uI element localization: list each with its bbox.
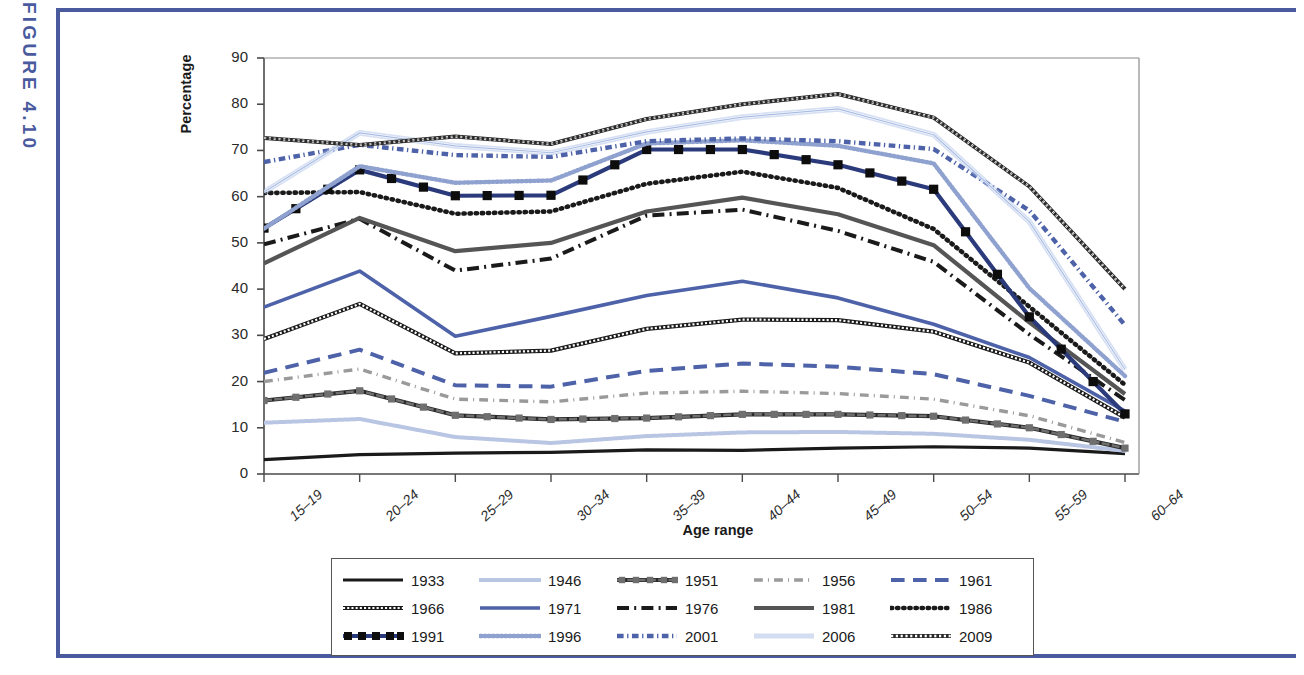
series-line-1933 [264, 447, 1125, 460]
legend-item-1961[interactable]: 1961 [890, 572, 1027, 589]
legend-item-2006[interactable]: 2006 [753, 628, 890, 645]
legend-swatch-1961 [890, 573, 952, 587]
legend-item-1966[interactable]: 1966 [342, 600, 479, 617]
y-tick-label: 50 [208, 233, 248, 250]
y-axis-title: Percentage [178, 0, 194, 194]
legend-swatch-1991 [342, 629, 404, 643]
y-tick-label: 80 [208, 94, 248, 111]
x-axis-title-text: Age range [683, 522, 754, 538]
chart-container: Percentage Age range 0102030405060708090… [60, 12, 1300, 662]
legend-swatch-1971 [479, 601, 541, 615]
legend-label: 1946 [548, 572, 581, 589]
legend-swatch-1996 [479, 629, 541, 643]
y-tick-label: 20 [208, 372, 248, 389]
y-tick-label: 30 [208, 325, 248, 342]
legend-swatch-1946 [479, 573, 541, 587]
legend-label: 1951 [685, 572, 718, 589]
y-tick-label: 70 [208, 140, 248, 157]
legend-label: 1933 [411, 572, 444, 589]
series-line-1951 [260, 387, 1128, 452]
legend-swatch-1976 [616, 601, 678, 615]
legend-item-1996[interactable]: 1996 [479, 628, 616, 645]
legend-item-1991[interactable]: 1991 [342, 628, 479, 645]
legend-label: 2006 [822, 628, 855, 645]
legend-label: 1981 [822, 600, 855, 617]
y-tick-label: 90 [208, 48, 248, 65]
y-tick-label: 60 [208, 187, 248, 204]
legend-swatch-2006 [753, 629, 815, 643]
legend-label: 2001 [685, 628, 718, 645]
legend-item-1956[interactable]: 1956 [753, 572, 890, 589]
legend-swatch-1981 [753, 601, 815, 615]
legend-item-1946[interactable]: 1946 [479, 572, 616, 589]
legend-swatch-2009 [890, 629, 952, 643]
legend-label: 1996 [548, 628, 581, 645]
legend-item-2001[interactable]: 2001 [616, 628, 753, 645]
legend-swatch-1933 [342, 573, 404, 587]
legend-label: 1976 [685, 600, 718, 617]
legend-item-1981[interactable]: 1981 [753, 600, 890, 617]
legend-item-1933[interactable]: 1933 [342, 572, 479, 589]
figure-frame: Percentage Age range 0102030405060708090… [56, 8, 1296, 658]
legend-label: 2009 [959, 628, 992, 645]
x-axis-title: Age range [60, 522, 1300, 538]
y-tick-label: 0 [208, 464, 248, 481]
legend-swatch-1951 [616, 573, 678, 587]
legend-swatch-2001 [616, 629, 678, 643]
legend-item-2009[interactable]: 2009 [890, 628, 1027, 645]
figure-page: FIGURE 4.10 Percentage Age range 0102030… [0, 0, 1304, 675]
series-line-1956 [264, 369, 1125, 442]
y-tick-label: 10 [208, 418, 248, 435]
legend-label: 1986 [959, 600, 992, 617]
legend-label: 1966 [411, 600, 444, 617]
legend-item-1976[interactable]: 1976 [616, 600, 753, 617]
series-line-1961 [264, 350, 1125, 422]
legend-label: 1961 [959, 572, 992, 589]
legend-item-1986[interactable]: 1986 [890, 600, 1027, 617]
series-line-1976 [264, 210, 1125, 400]
legend-swatch-1956 [753, 573, 815, 587]
series-line-1971 [264, 271, 1125, 411]
y-tick-label: 40 [208, 279, 248, 296]
chart-series-group [259, 94, 1129, 460]
legend-item-1971[interactable]: 1971 [479, 600, 616, 617]
figure-number-label: FIGURE 4.10 [0, 0, 60, 300]
legend-swatch-1966 [342, 601, 404, 615]
legend-grid: 1933194619511956196119661971197619811986… [342, 566, 1027, 650]
legend-swatch-1986 [890, 601, 952, 615]
figure-number-text: FIGURE 4.10 [18, 2, 40, 232]
legend-label: 1971 [548, 600, 581, 617]
chart-legend: 1933194619511956196119661971197619811986… [331, 558, 1034, 656]
legend-label: 1991 [411, 628, 444, 645]
legend-label: 1956 [822, 572, 855, 589]
legend-item-1951[interactable]: 1951 [616, 572, 753, 589]
